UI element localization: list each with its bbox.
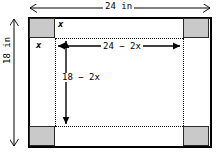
fold-line-right [183,38,184,126]
fold-line-top [55,38,183,39]
fold-line-left [55,38,56,126]
label-overall-height: 18 in [3,35,12,66]
corner-square-top-right [183,18,209,38]
corner-square-bottom-right [183,126,209,146]
label-base-width: 24 − 2x [101,42,143,51]
label-cut-side-top: x [58,20,63,29]
label-overall-width: 24 in [103,2,134,11]
corner-square-bottom-left [29,126,55,146]
label-base-height: 18 − 2x [60,73,102,82]
corner-square-top-left [29,18,55,38]
fold-line-bottom [55,126,183,127]
geometry-figure: 24 in 18 in 24 − 2x 18 − 2x x x [0,0,218,159]
label-cut-side-left: x [36,41,41,50]
